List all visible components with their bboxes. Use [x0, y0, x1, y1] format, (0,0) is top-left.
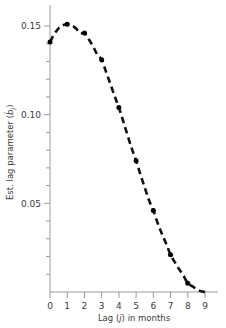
plot-axes: [50, 5, 218, 292]
y-axis-tick-labels: 0.050.100.15: [21, 21, 41, 208]
y-tick-label: 0.05: [21, 199, 41, 209]
fitted-lag-curve: [50, 24, 205, 292]
x-axis-title: Lag (j) in months: [98, 313, 171, 323]
data-point-marker: [82, 31, 87, 36]
data-point-marker: [185, 281, 190, 286]
x-tick-label: 8: [185, 301, 191, 311]
chart-figure: 0.050.100.15 0123456789 Est. lag paramet…: [0, 0, 226, 328]
y-tick-label: 0.10: [21, 110, 41, 120]
x-tick-label: 0: [47, 301, 53, 311]
data-point-marker: [116, 105, 121, 110]
data-point-marker: [65, 22, 70, 27]
y-tick-label: 0.15: [21, 21, 41, 31]
x-axis-tick-labels: 0123456789: [47, 301, 208, 311]
lag-distribution-chart: 0.050.100.15 0123456789 Est. lag paramet…: [0, 0, 226, 328]
x-tick-label: 6: [150, 301, 156, 311]
data-point-marker: [48, 39, 53, 44]
x-tick-label: 1: [64, 301, 70, 311]
x-tick-label: 3: [99, 301, 105, 311]
x-tick-label: 2: [82, 301, 88, 311]
x-tick-label: 9: [202, 301, 208, 311]
y-axis-title: Est. lag parameter (b̂j): [4, 104, 16, 200]
x-tick-label: 7: [168, 301, 174, 311]
data-point-marker: [134, 158, 139, 163]
y-axis-ticks: [44, 26, 50, 274]
data-point-marker: [168, 252, 173, 257]
x-tick-label: 4: [116, 301, 122, 311]
y-axis-title-text: Est. lag parameter (b̂j): [4, 104, 16, 200]
x-axis-ticks: [50, 292, 205, 298]
x-axis-title-text: Lag (j) in months: [98, 313, 171, 323]
data-point-marker: [151, 208, 156, 213]
data-point-marker: [99, 57, 104, 62]
x-tick-label: 5: [133, 301, 139, 311]
data-point-markers: [48, 22, 191, 286]
